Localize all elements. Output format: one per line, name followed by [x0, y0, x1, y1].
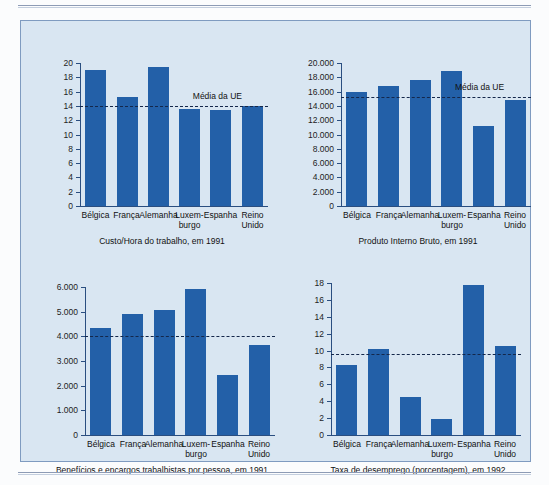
- bar-blgica: [85, 70, 106, 206]
- y-tick-mark: [327, 283, 331, 284]
- y-tick-label: 12.000: [293, 116, 334, 124]
- y-tick-label: 6: [43, 159, 73, 167]
- figure-panel: 02468101214161820Média da UEBélgicaFranç…: [20, 20, 531, 462]
- y-tick-mark: [76, 92, 80, 93]
- y-tick-label: 10.000: [293, 131, 334, 139]
- y-axis: [331, 283, 332, 435]
- y-tick-mark: [327, 401, 331, 402]
- y-tick-mark: [81, 435, 85, 436]
- bar-blgica: [336, 365, 357, 435]
- y-tick-label: 18: [293, 279, 324, 287]
- y-tick-mark: [327, 418, 331, 419]
- x-tick-label-line: burgo: [420, 450, 464, 460]
- y-tick-mark: [337, 63, 341, 64]
- y-tick-label: 16.000: [293, 88, 334, 96]
- bar-alemanha: [400, 397, 421, 435]
- average-line-label: Média da UE: [193, 91, 242, 101]
- x-tick-label-line: burgo: [430, 221, 474, 231]
- bottom-rule: [18, 472, 531, 473]
- y-tick-mark: [76, 120, 80, 121]
- y-axis: [85, 287, 86, 435]
- y-tick-label: 6: [293, 380, 324, 388]
- average-line: [85, 336, 275, 337]
- y-tick-mark: [76, 77, 80, 78]
- x-tick-label: ReinoUnido: [483, 440, 527, 459]
- bottom-rule-thin: [18, 474, 531, 475]
- y-tick-mark: [337, 149, 341, 150]
- y-tick-mark: [76, 177, 80, 178]
- y-tick-label: 10: [43, 131, 73, 139]
- bar-frana: [117, 97, 138, 206]
- top-rule-thin: [18, 7, 531, 8]
- bar-reinounido: [249, 345, 270, 435]
- y-tick-label: 18.000: [293, 73, 334, 81]
- y-tick-label: 8: [43, 145, 73, 153]
- bar-espanha: [463, 285, 484, 435]
- bar-frana: [368, 349, 389, 435]
- y-tick-mark: [76, 192, 80, 193]
- y-tick-mark: [337, 177, 341, 178]
- y-tick-label: 20: [43, 59, 73, 67]
- y-tick-mark: [337, 192, 341, 193]
- y-tick-label: 6.000: [43, 283, 78, 291]
- y-axis: [80, 63, 81, 206]
- y-tick-label: 6.000: [293, 159, 334, 167]
- y-tick-mark: [76, 206, 80, 207]
- x-tick-label-line: Unido: [483, 450, 527, 460]
- x-tick-label-line: burgo: [168, 221, 211, 231]
- y-tick-mark: [337, 77, 341, 78]
- bar-luxemburgo: [179, 109, 200, 206]
- bar-luxemburgo: [431, 419, 452, 435]
- average-line: [331, 354, 521, 355]
- x-axis: [85, 435, 275, 436]
- y-tick-mark: [337, 120, 341, 121]
- figure-page: 02468101214161820Média da UEBélgicaFranç…: [0, 0, 549, 485]
- bar-reinounido: [495, 346, 516, 435]
- y-tick-label: 10: [293, 347, 324, 355]
- bar-reinounido: [242, 106, 263, 206]
- chart-panel-beneficios: 01.0002.0003.0004.0005.0006.000BélgicaFr…: [43, 265, 281, 475]
- y-tick-mark: [327, 351, 331, 352]
- x-tick-label: ReinoUnido: [237, 440, 281, 459]
- y-tick-label: 8: [293, 363, 324, 371]
- x-axis: [80, 206, 268, 207]
- y-tick-label: 3.000: [43, 357, 78, 365]
- y-tick-label: 16: [293, 296, 324, 304]
- average-line: [341, 97, 531, 98]
- y-tick-label: 0: [43, 202, 73, 210]
- average-line: [80, 106, 268, 107]
- y-tick-mark: [76, 135, 80, 136]
- y-tick-label: 4: [293, 397, 324, 405]
- average-line-label: Média da UE: [455, 82, 504, 92]
- x-tick-label-line: Unido: [493, 221, 537, 231]
- y-tick-mark: [337, 92, 341, 93]
- y-tick-label: 4.000: [43, 332, 78, 340]
- y-tick-mark: [327, 317, 331, 318]
- y-tick-label: 2.000: [293, 188, 334, 196]
- y-tick-label: 8.000: [293, 145, 334, 153]
- y-tick-label: 5.000: [43, 308, 78, 316]
- y-tick-mark: [81, 312, 85, 313]
- y-tick-label: 20.000: [293, 59, 334, 67]
- bar-frana: [122, 314, 143, 435]
- y-tick-mark: [337, 163, 341, 164]
- x-axis: [341, 206, 531, 207]
- bar-espanha: [210, 110, 231, 206]
- x-tick-label-line: Unido: [231, 221, 274, 231]
- chart-panel-desemprego: 024681012141618BélgicaFrançaAlemanhaLuxe…: [293, 265, 543, 475]
- y-tick-label: 1.000: [43, 406, 78, 414]
- bar-alemanha: [148, 67, 169, 206]
- y-axis: [341, 63, 342, 206]
- y-tick-mark: [76, 163, 80, 164]
- y-tick-label: 14: [293, 313, 324, 321]
- chart-panel-pib: 02.0004.0006.0008.00010.00012.00014.0001…: [293, 45, 543, 245]
- y-tick-label: 12: [293, 330, 324, 338]
- bar-alemanha: [154, 310, 175, 435]
- y-tick-label: 12: [43, 116, 73, 124]
- y-tick-label: 2: [293, 414, 324, 422]
- y-tick-mark: [327, 435, 331, 436]
- y-tick-label: 18: [43, 73, 73, 81]
- bar-alemanha: [410, 80, 431, 206]
- y-tick-mark: [337, 135, 341, 136]
- bar-reinounido: [505, 100, 526, 206]
